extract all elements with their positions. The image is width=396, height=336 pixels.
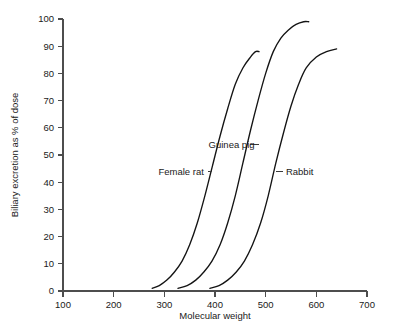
y-axis-ticks: 0102030405060708090100 (38, 13, 63, 296)
x-tick-label: 200 (106, 299, 122, 310)
series-curve-rabbit (210, 49, 337, 288)
x-tick-label: 700 (359, 299, 375, 310)
series-annotations: Guinea pigFemale ratRabbit (158, 139, 313, 177)
y-tick-label: 90 (43, 41, 54, 52)
data-series-group (152, 22, 336, 289)
x-axis-title: Molecular weight (179, 310, 251, 321)
y-tick-label: 70 (43, 95, 54, 106)
chart-figure: 0102030405060708090100 10020030040050060… (0, 0, 396, 336)
y-tick-label: 50 (43, 149, 54, 160)
y-tick-label: 30 (43, 204, 54, 215)
y-tick-label: 20 (43, 231, 54, 242)
x-tick-label: 300 (156, 299, 172, 310)
y-tick-label: 80 (43, 68, 54, 79)
x-tick-label: 400 (207, 299, 223, 310)
y-tick-label: 0 (49, 285, 54, 296)
series-label-rabbit: Rabbit (286, 166, 314, 177)
x-tick-label: 600 (308, 299, 324, 310)
y-tick-label: 10 (43, 258, 54, 269)
x-tick-label: 500 (258, 299, 274, 310)
x-tick-label: 100 (55, 299, 71, 310)
y-tick-label: 100 (38, 13, 54, 24)
series-label-guinea-pig: Guinea pig (209, 139, 255, 150)
series-label-female-rat: Female rat (158, 166, 204, 177)
series-curve-guinea-pig (178, 22, 309, 289)
y-axis-title: Biliary excretion as % of dose (9, 93, 20, 218)
x-axis-ticks: 100200300400500600700 (55, 291, 375, 310)
y-tick-label: 40 (43, 177, 54, 188)
chart-plot-area: 0102030405060708090100 10020030040050060… (0, 0, 396, 336)
y-tick-label: 60 (43, 122, 54, 133)
